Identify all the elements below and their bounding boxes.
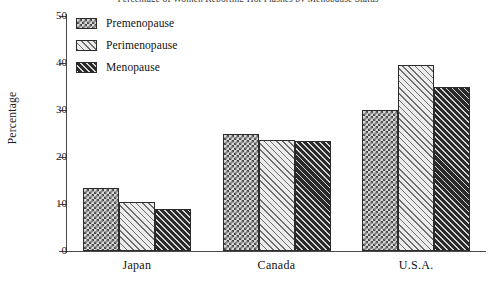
legend-swatch-menopause-icon <box>76 62 97 73</box>
bar-chart-figure: Percentage of Women Reporting Hot Flashe… <box>0 0 496 286</box>
bar[interactable] <box>119 202 155 251</box>
y-tick-label: 30 <box>21 104 67 115</box>
legend-label: Perimenopause <box>106 39 178 51</box>
y-tick-label: 20 <box>21 151 67 162</box>
legend-swatch-premenopause-icon <box>76 18 97 29</box>
y-tick-label-row: 50 <box>0 10 67 21</box>
y-tick-label-row: 40 <box>0 57 67 68</box>
chart-title: Percentage of Women Reporting Hot Flashe… <box>0 0 496 2</box>
bar[interactable] <box>259 140 295 251</box>
y-tick-label-row: 0 <box>0 245 67 256</box>
bar[interactable] <box>83 188 119 251</box>
y-tick-label: 10 <box>21 198 67 209</box>
legend-label: Menopause <box>106 61 160 73</box>
y-axis-label: Percentage <box>6 73 18 163</box>
x-axis-line <box>66 251 486 252</box>
bar[interactable] <box>398 65 434 251</box>
y-tick-label-row: 10 <box>0 198 67 209</box>
y-tick-label-row: 20 <box>0 151 67 162</box>
bar[interactable] <box>223 134 259 252</box>
y-tick-label: 50 <box>21 10 67 21</box>
y-tick-label: 40 <box>21 57 67 68</box>
bar[interactable] <box>434 87 470 252</box>
x-tick-label: Japan <box>77 258 197 273</box>
x-tick-label: U.S.A. <box>356 258 476 273</box>
bar[interactable] <box>295 141 331 251</box>
chart-legend: Premenopause Perimenopause Menopause <box>76 12 246 78</box>
y-axis-line <box>66 14 67 253</box>
x-tick-label: Canada <box>217 258 337 273</box>
y-tick-label: 0 <box>21 245 67 256</box>
legend-item[interactable]: Menopause <box>76 56 246 78</box>
legend-label: Premenopause <box>106 17 174 29</box>
legend-item[interactable]: Premenopause <box>76 12 246 34</box>
legend-item[interactable]: Perimenopause <box>76 34 246 56</box>
bar[interactable] <box>155 209 191 251</box>
y-tick-label-row: 30 <box>0 104 67 115</box>
bar[interactable] <box>362 110 398 251</box>
legend-swatch-perimenopause-icon <box>76 40 97 51</box>
